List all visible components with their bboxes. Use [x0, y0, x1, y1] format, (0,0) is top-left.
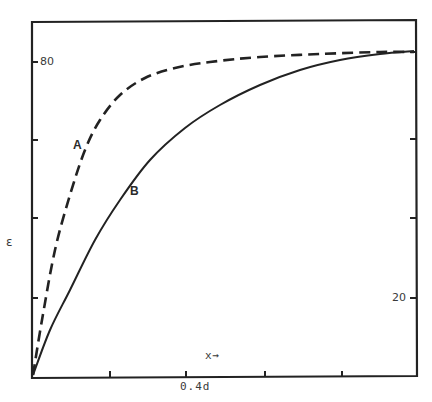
- y-tick-label-80: 80: [40, 56, 54, 67]
- chart-canvas: [0, 0, 432, 402]
- y-axis-label-epsilon: ε: [6, 236, 13, 248]
- y-tick-label-20: 20: [392, 292, 406, 303]
- x-axis-label: x→: [205, 350, 220, 361]
- plot-frame: [32, 20, 417, 378]
- curve-a-dashed: [33, 52, 414, 375]
- curve-a-label: A: [73, 139, 82, 151]
- curve-b-label: B: [130, 185, 139, 197]
- x-tick-label-0-4d: 0.4d: [180, 381, 211, 392]
- axis-ticks: [32, 52, 416, 377]
- curve-b-solid: [33, 51, 414, 375]
